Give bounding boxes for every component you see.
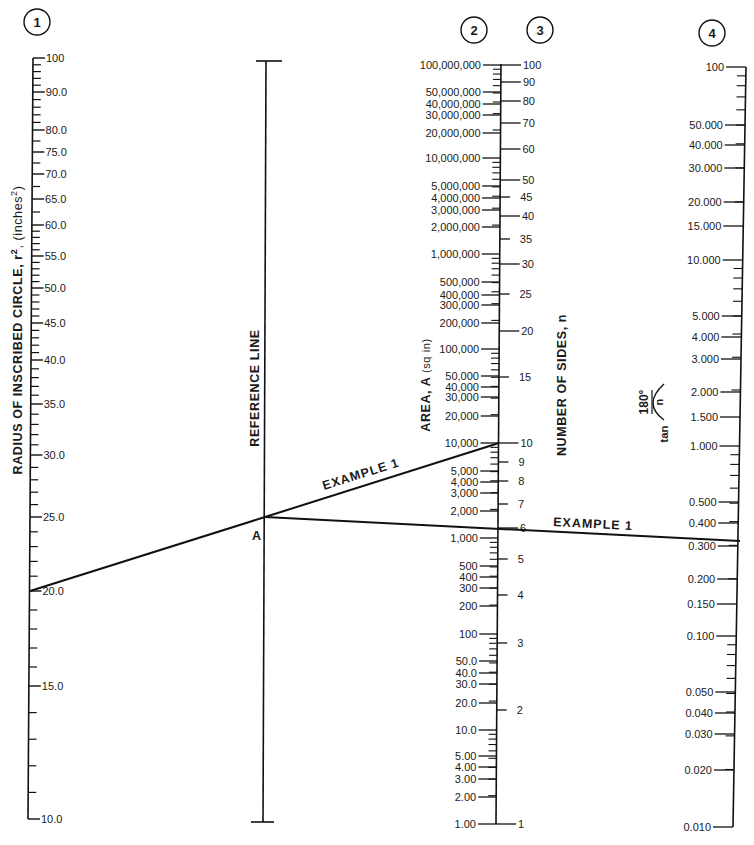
area-tick-label: 200 — [459, 600, 477, 612]
area-tick-label: 100 — [459, 628, 477, 640]
tan-tick-label: 5.000 — [692, 310, 720, 322]
sides-tick-label: 70 — [523, 117, 535, 129]
reference-line: REFERENCE LINE A — [248, 61, 282, 822]
sides-scale: 10090807060504540353025201510987654321 N… — [496, 59, 569, 830]
tan-axis-title: tan 180° n — [637, 384, 670, 443]
tan-tick-label: 10.000 — [687, 254, 721, 266]
radius-tick-label: 60.0 — [45, 219, 66, 231]
area-tick-label: 1.00 — [455, 818, 476, 830]
tan-tick-label: 0.050 — [686, 686, 714, 698]
svg-text:1: 1 — [33, 15, 40, 30]
reference-line-title: REFERENCE LINE — [248, 329, 262, 446]
sides-tick-label: 20 — [521, 325, 533, 337]
scale-number-1: 1 — [24, 9, 50, 35]
svg-text:2: 2 — [470, 23, 477, 38]
sides-tick-label: 5 — [518, 553, 524, 565]
radius-scale: 10090.080.075.070.065.060.055.050.045.04… — [9, 52, 67, 825]
area-tick-label: 200,000 — [440, 317, 480, 329]
tan-tick-label: 1.000 — [690, 440, 718, 452]
sides-tick-label: 8 — [518, 475, 524, 487]
tan-tick-label: 40.000 — [689, 139, 723, 151]
tan-tick-label: 30.000 — [689, 162, 723, 174]
radius-tick-label: 40.0 — [44, 354, 65, 366]
radius-tick-label: 100 — [46, 52, 64, 64]
area-scale: 100,000,00050,000,00040,000,00030,000,00… — [419, 59, 501, 830]
sides-tick-label: 7 — [518, 498, 524, 510]
sides-tick-label: 60 — [522, 143, 534, 155]
area-tick-label: 5,000,000 — [431, 180, 480, 192]
radius-tick-label: 45.0 — [44, 317, 65, 329]
area-tick-label: 30.0 — [455, 678, 476, 690]
sides-tick-label: 25 — [519, 288, 531, 300]
tan-tick-label: 100 — [706, 61, 724, 73]
area-tick-label: 4.00 — [455, 761, 476, 773]
tan-tick-label: 50.000 — [689, 119, 723, 131]
sides-tick-label: 10 — [521, 437, 533, 449]
sides-tick-label: 2 — [517, 704, 523, 716]
area-tick-label: 100,000 — [439, 343, 479, 355]
area-tick-label: 30,000 — [445, 391, 479, 403]
tan-tick-label: 20.000 — [688, 196, 722, 208]
sides-tick-label: 6 — [520, 522, 526, 534]
area-tick-label: 50,000,000 — [426, 86, 481, 98]
nomogram: 1 2 3 4 10090.080.075.070.065.060.055.05… — [0, 0, 754, 845]
sides-tick-label: 30 — [522, 258, 534, 270]
example-1-label-lower: EXAMPLE 1 — [553, 515, 633, 533]
scale-number-3: 3 — [527, 17, 553, 43]
area-tick-label: 4,000,000 — [431, 192, 480, 204]
tan-tick-label: 0.400 — [689, 517, 717, 529]
area-tick-label: 20,000,000 — [425, 127, 480, 139]
area-axis-title: AREA, A (sq in) — [419, 338, 433, 432]
radius-tick-label: 10.0 — [41, 813, 62, 825]
tan-tick-label: 0.300 — [688, 540, 716, 552]
tan-tick-label: 0.200 — [688, 573, 716, 585]
radius-tick-label: 80.0 — [46, 124, 67, 136]
tan-tick-label: 1.500 — [690, 411, 718, 423]
tan-tick-label: 0.500 — [689, 496, 717, 508]
area-tick-label: 50.0 — [456, 655, 477, 667]
sides-tick-label: 15 — [519, 371, 531, 383]
area-tick-label: 300,000 — [440, 299, 480, 311]
area-tick-label: 30,000,000 — [426, 109, 481, 121]
area-tick-label: 300 — [459, 582, 477, 594]
sides-tick-label: 9 — [518, 456, 524, 468]
sides-tick-label: 100 — [523, 59, 541, 71]
svg-text:4: 4 — [708, 26, 716, 41]
radius-tick-label: 25.0 — [43, 511, 64, 523]
radius-tick-label: 50.0 — [44, 282, 65, 294]
tan-tick-label: 4.000 — [692, 331, 720, 343]
sides-tick-label: 45 — [520, 191, 532, 203]
radius-tick-label: 30.0 — [43, 449, 64, 461]
tan-tick-label: 2.000 — [691, 386, 719, 398]
area-tick-label: 10,000 — [445, 437, 479, 449]
area-tick-label: 10,000,000 — [425, 152, 480, 164]
sides-tick-label: 3 — [517, 637, 523, 649]
radius-axis-title: RADIUS OF INSCRIBED CIRCLE, r2, (inches2… — [9, 186, 25, 475]
tan-tick-label: 15.000 — [688, 220, 722, 232]
radius-tick-label: 55.0 — [45, 250, 66, 262]
tan-scale: 10050.00040.00030.00020.00015.00010.0005… — [637, 61, 746, 833]
tan-tick-label: 0.020 — [684, 764, 712, 776]
scale-number-4: 4 — [699, 20, 725, 46]
area-tick-label: 2,000 — [451, 505, 479, 517]
sides-tick-label: 50 — [522, 174, 534, 186]
sides-tick-label: 90 — [523, 76, 535, 88]
radius-tick-label: 70.0 — [45, 168, 66, 180]
sides-axis-title: NUMBER OF SIDES, n — [555, 314, 569, 456]
area-tick-label: 1,000,000 — [431, 248, 480, 260]
example-1-lines: EXAMPLE 1 EXAMPLE 1 — [30, 443, 740, 591]
area-tick-label: 500,000 — [440, 276, 480, 288]
area-tick-label: 2.00 — [455, 791, 476, 803]
area-tick-label: 3.00 — [455, 773, 476, 785]
area-tick-label: 1,000 — [450, 532, 478, 544]
radius-tick-label: 15.0 — [42, 680, 63, 692]
area-tick-label: 20,000 — [445, 410, 479, 422]
radius-tick-label: 90.0 — [46, 86, 67, 98]
tan-tick-label: 0.040 — [685, 707, 713, 719]
tan-tick-label: 3.000 — [691, 353, 719, 365]
sides-tick-label: 4 — [518, 589, 524, 601]
svg-text:n: n — [653, 398, 665, 405]
area-tick-label: 100,000,000 — [420, 59, 481, 71]
sides-tick-label: 40 — [522, 210, 534, 222]
area-tick-label: 3,000 — [451, 487, 479, 499]
